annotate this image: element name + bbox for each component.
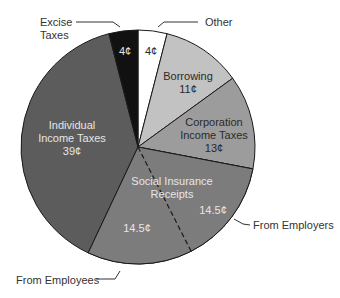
excise-label-line1: Excise [40, 16, 72, 28]
borrowing-value: 11¢ [179, 83, 197, 95]
borrowing-label: Borrowing [163, 70, 213, 82]
corp-label-line2: Income Taxes [180, 129, 248, 141]
other-label: Other [205, 16, 233, 28]
excise-label-line2: Taxes [40, 29, 69, 41]
other-value: 4¢ [145, 45, 157, 57]
from-employers-label: From Employers [253, 219, 334, 231]
individual-label-line2: Income Taxes [38, 132, 106, 144]
other-leader-line [158, 22, 198, 27]
employees-value: 14.5¢ [123, 222, 151, 234]
employees-leader-line [96, 271, 120, 279]
social-label-line2: Receipts [151, 188, 194, 200]
pie-chart: Excise Taxes Other From Employers From E… [0, 0, 340, 298]
employers-value: 14.5¢ [199, 204, 227, 216]
employers-leader-line [234, 219, 250, 225]
social-label-line1: Social Insurance [131, 175, 212, 187]
excise-value: 4¢ [119, 45, 131, 57]
excise-leader-line [76, 22, 120, 27]
individual-value: 39¢ [63, 145, 81, 157]
from-employees-label: From Employees [16, 274, 100, 286]
individual-label-line1: Individual [49, 119, 95, 131]
corp-label-line1: Corporation [185, 116, 242, 128]
corp-value: 13¢ [205, 142, 223, 154]
